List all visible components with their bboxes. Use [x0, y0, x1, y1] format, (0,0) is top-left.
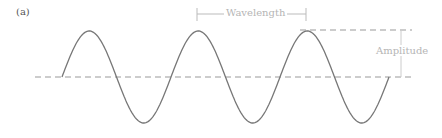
wave-diagram: [0, 0, 442, 138]
panel-label: (a): [16, 6, 30, 17]
amplitude-label: Amplitude: [375, 45, 429, 56]
wavelength-label: Wavelength: [224, 7, 287, 18]
